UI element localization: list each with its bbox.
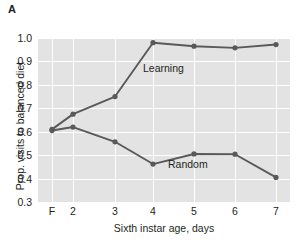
data-point-marker xyxy=(70,124,75,129)
data-point-marker xyxy=(191,44,196,49)
data-point-marker xyxy=(232,152,237,157)
data-point-marker xyxy=(112,94,117,99)
data-point-marker xyxy=(49,128,54,133)
line-chart: 1.00.90.80.70.60.50.40.3 F234567 Prop. v… xyxy=(0,0,299,244)
data-point-marker xyxy=(150,161,155,166)
data-point-marker xyxy=(112,139,117,144)
data-point-marker xyxy=(150,40,155,45)
series-label-random: Random xyxy=(168,158,208,170)
series-layer xyxy=(0,0,299,244)
series-line-random xyxy=(52,127,276,177)
data-point-marker xyxy=(191,151,196,156)
series-label-learning: Learning xyxy=(143,62,184,74)
series-line-learning xyxy=(52,43,276,130)
data-point-marker xyxy=(70,112,75,117)
data-point-marker xyxy=(232,45,237,50)
data-point-marker xyxy=(273,42,278,47)
data-point-marker xyxy=(273,175,278,180)
